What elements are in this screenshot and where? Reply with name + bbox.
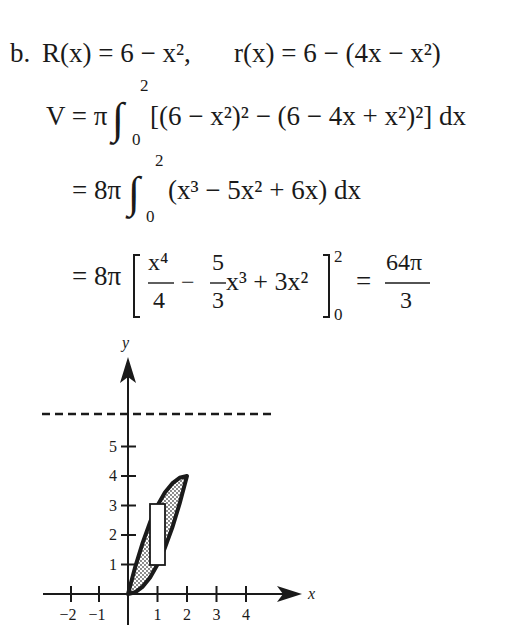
integrand: [(6 − x²)² − (6 − 4x + x²)²] dx xyxy=(150,101,466,131)
svg-text:−2: −2 xyxy=(59,606,76,623)
line-2-volume-integral: V = π ∫ 2 0 [(6 − x²)² − (6 − 4x + x²)²]… xyxy=(46,76,466,149)
simplified-lhs: = 8π xyxy=(72,175,121,205)
svg-text:3: 3 xyxy=(109,497,117,514)
r-definition: r(x) = 6 − (4x − x²) xyxy=(234,38,441,68)
svg-text:3: 3 xyxy=(213,606,221,623)
lower-limit: 0 xyxy=(334,305,343,324)
lower-limit: 0 xyxy=(132,130,141,149)
remaining-terms: x³ + 3x² xyxy=(226,267,308,296)
lower-limit: 0 xyxy=(146,207,155,226)
frac2-numerator: 5 xyxy=(212,249,224,275)
representative-rectangle xyxy=(150,504,165,565)
part-label: b. xyxy=(10,38,30,68)
line-1-definitions: b. R(x) = 6 − x², r(x) = 6 − (4x − x²) xyxy=(10,38,441,68)
line-4-evaluation: = 8π x⁴ 4 − 5 3 x³ + 3x² 2 0 = 64π 3 xyxy=(72,247,430,324)
svg-text:5: 5 xyxy=(109,438,117,455)
upper-limit: 2 xyxy=(140,76,149,95)
solution-canvas: b. R(x) = 6 − x², r(x) = 6 − (4x − x²) V… xyxy=(0,0,512,637)
frac1-numerator: x⁴ xyxy=(148,249,168,275)
minus-sign: − xyxy=(181,269,195,295)
frac1-denominator: 4 xyxy=(153,287,165,313)
result-denominator: 3 xyxy=(400,287,412,313)
integrand: (x³ − 5x² + 6x) dx xyxy=(168,175,361,205)
line-3-simplified-integral: = 8π ∫ 2 0 (x³ − 5x² + 6x) dx xyxy=(72,151,361,226)
x-axis-label: x xyxy=(307,585,315,602)
right-bracket-icon xyxy=(323,255,329,317)
svg-text:2: 2 xyxy=(183,606,191,623)
svg-text:1: 1 xyxy=(154,606,162,623)
svg-text:1: 1 xyxy=(109,556,117,573)
frac2-denominator: 3 xyxy=(212,287,224,313)
integral-sign-icon: ∫ xyxy=(109,94,127,145)
y-tick-labels: 1 2 3 4 5 xyxy=(109,438,117,573)
equals-sign: = xyxy=(356,266,371,296)
svg-text:4: 4 xyxy=(109,467,117,484)
integral-sign-icon: ∫ xyxy=(125,168,143,219)
evaluation-lhs: = 8π xyxy=(72,261,121,291)
result-numerator: 64π xyxy=(386,249,422,275)
R-definition: R(x) = 6 − x², xyxy=(42,38,191,68)
svg-text:2: 2 xyxy=(109,526,117,543)
left-bracket-icon xyxy=(134,255,140,317)
upper-limit: 2 xyxy=(155,151,164,170)
svg-text:−1: −1 xyxy=(88,606,105,623)
y-axis-label: y xyxy=(120,334,130,352)
svg-text:4: 4 xyxy=(242,606,250,623)
upper-limit: 2 xyxy=(334,247,343,266)
volume-lhs: V = π xyxy=(46,101,108,131)
x-tick-labels: −2 −1 1 2 3 4 xyxy=(59,606,250,623)
graph: y x 1 2 3 4 5 −2 xyxy=(42,334,315,625)
